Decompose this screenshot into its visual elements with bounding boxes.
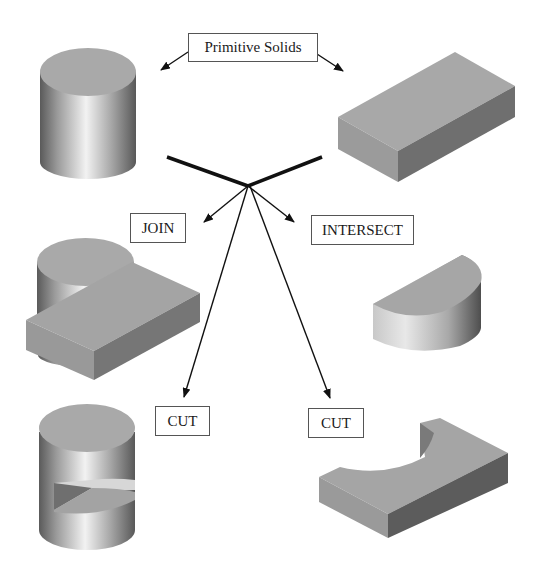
- join-label: JOIN: [130, 213, 186, 243]
- intersect-text: INTERSECT: [322, 222, 403, 239]
- cut-left-text: CUT: [168, 413, 198, 430]
- arrow-to-join: [204, 186, 248, 222]
- intersect-result: [373, 255, 482, 351]
- intersect-label: INTERSECT: [311, 215, 414, 245]
- cut-left-label: CUT: [155, 406, 210, 436]
- primitive-box: [338, 52, 515, 182]
- arrow-to-intersect: [248, 186, 294, 222]
- arrow-to-primitive-cylinder: [161, 52, 188, 70]
- boolean-operations-diagram: [0, 0, 543, 580]
- arrow-to-primitive-box: [317, 54, 343, 71]
- input-lines: [167, 157, 322, 186]
- primitive-solids-text: Primitive Solids: [204, 39, 301, 56]
- operation-arrows: [184, 186, 330, 398]
- join-text: JOIN: [142, 220, 175, 237]
- cut-right-text: CUT: [321, 415, 351, 432]
- primitive-solids-label: Primitive Solids: [188, 33, 318, 62]
- cut-cylinder-result: [39, 404, 135, 550]
- join-result: [26, 238, 200, 380]
- primitive-cylinder: [40, 48, 136, 179]
- cut-right-label: CUT: [308, 408, 364, 438]
